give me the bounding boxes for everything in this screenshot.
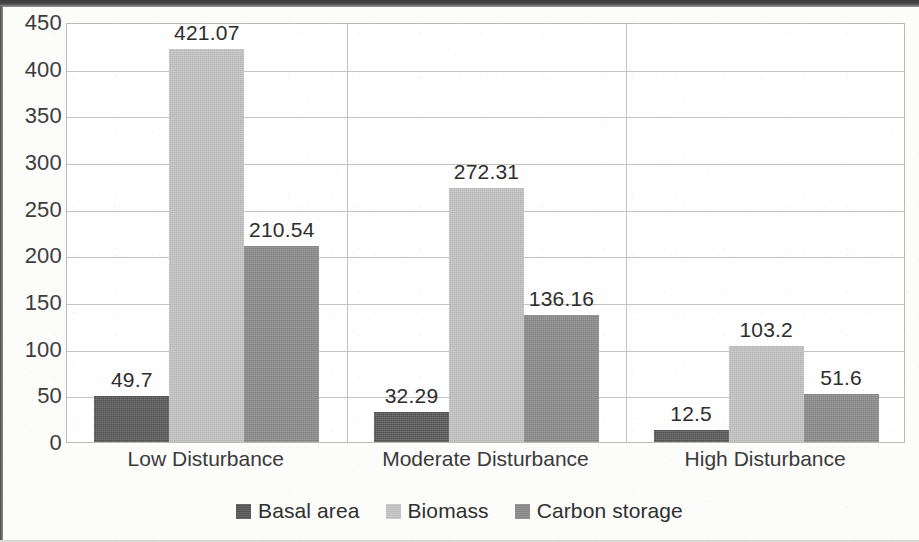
bar-texture [169, 49, 244, 442]
bar-slot: 32.29 [374, 24, 449, 442]
legend-swatch-icon [515, 504, 530, 519]
bar-slot: 49.7 [94, 24, 169, 442]
scan-top-edge [0, 0, 919, 7]
bar-slot: 103.2 [729, 24, 804, 442]
y-axis-tick-label: 350 [4, 103, 62, 129]
bar[interactable] [244, 246, 319, 443]
bar-chart: 050100150200250300350400450 49.7421.0721… [0, 7, 919, 542]
x-axis-category-label: Low Disturbance [128, 447, 284, 471]
bar-texture [524, 315, 599, 442]
legend-item[interactable]: Basal area [236, 499, 359, 523]
bar-texture [729, 346, 804, 442]
bar-value-label: 12.5 [670, 402, 712, 426]
scanned-page: 050100150200250300350400450 49.7421.0721… [0, 0, 919, 542]
bar-value-label: 51.6 [820, 366, 862, 390]
bar-slot: 136.16 [524, 24, 599, 442]
legend-label: Biomass [408, 499, 489, 523]
bar-texture [654, 430, 729, 442]
y-axis-tick-label: 200 [4, 243, 62, 269]
chart-legend: Basal areaBiomassCarbon storage [0, 499, 919, 523]
y-axis-tick-label: 400 [4, 57, 62, 83]
legend-item[interactable]: Biomass [386, 499, 489, 523]
y-axis-tick-label: 150 [4, 290, 62, 316]
legend-swatch-icon [386, 504, 401, 519]
bar[interactable] [169, 49, 244, 442]
bar-value-label: 421.07 [174, 21, 239, 45]
bar-value-label: 136.16 [529, 287, 594, 311]
bar-slot: 421.07 [169, 24, 244, 442]
legend-swatch-texture [386, 504, 401, 519]
bar[interactable] [654, 430, 729, 442]
legend-swatch-texture [236, 504, 251, 519]
bar-group: 49.7421.07210.54 [67, 24, 347, 442]
legend-swatch-icon [236, 504, 251, 519]
y-axis: 050100150200250300350400450 [0, 23, 62, 443]
bar-slot: 272.31 [449, 24, 524, 442]
bar-slot: 12.5 [654, 24, 729, 442]
bar-value-label: 32.29 [385, 384, 439, 408]
bar[interactable] [94, 396, 169, 442]
bar-texture [449, 188, 524, 442]
bar-texture [244, 246, 319, 443]
y-axis-tick-label: 450 [4, 10, 62, 36]
x-axis-labels: Low DisturbanceModerate DisturbanceHigh … [66, 447, 905, 481]
bar-texture [804, 394, 879, 442]
legend-label: Basal area [258, 499, 359, 523]
y-axis-tick-label: 50 [4, 383, 62, 409]
y-axis-tick-label: 100 [4, 337, 62, 363]
bar-texture [94, 396, 169, 442]
legend-swatch-texture [515, 504, 530, 519]
legend-label: Carbon storage [537, 499, 683, 523]
bar[interactable] [374, 412, 449, 442]
legend-item[interactable]: Carbon storage [515, 499, 683, 523]
y-axis-tick-label: 0 [4, 430, 62, 456]
bar-texture [374, 412, 449, 442]
x-axis-category-label: Moderate Disturbance [382, 447, 589, 471]
bar[interactable] [729, 346, 804, 442]
bar-group: 12.5103.251.6 [626, 24, 906, 442]
x-axis-category-label: High Disturbance [685, 447, 846, 471]
bar[interactable] [524, 315, 599, 442]
bar-slot: 51.6 [804, 24, 879, 442]
bar[interactable] [449, 188, 524, 442]
bar-value-label: 49.7 [111, 368, 153, 392]
bar-value-label: 210.54 [249, 218, 314, 242]
bar-value-label: 103.2 [739, 318, 793, 342]
bar-value-label: 272.31 [454, 160, 519, 184]
plot-area: 49.7421.07210.5432.29272.31136.1612.5103… [66, 23, 905, 443]
bar[interactable] [804, 394, 879, 442]
y-axis-tick-label: 300 [4, 150, 62, 176]
bar-slot: 210.54 [244, 24, 319, 442]
bar-group: 32.29272.31136.16 [347, 24, 627, 442]
y-axis-tick-label: 250 [4, 197, 62, 223]
